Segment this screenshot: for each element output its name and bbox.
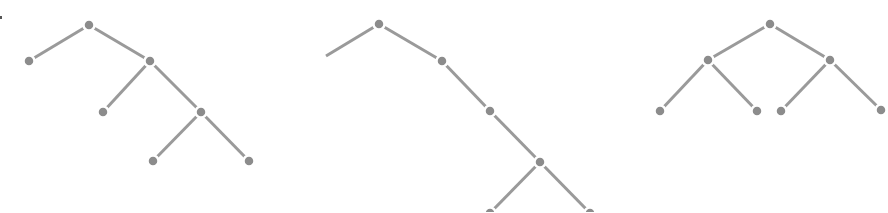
edge-artifact [0,16,2,19]
tree-node [437,56,448,67]
tree-edge [490,111,540,162]
tree-left-edges [29,25,249,161]
tree-node [244,156,255,167]
tree-edge [29,25,89,61]
tree-node [374,19,385,30]
tree-node [825,55,836,66]
tree-edge [379,24,442,61]
tree-node [585,208,596,213]
tree-left-nodes [24,20,255,167]
tree-middle-edges [326,24,590,212]
tree-edge [660,60,708,111]
tree-edge [150,61,201,112]
tree-node [535,157,546,168]
tree-diagram-canvas [0,0,888,212]
tree-edge [89,25,150,61]
tree-edge [781,60,830,111]
tree-node [655,106,666,117]
tree-node [145,56,156,67]
tree-edge [103,61,150,112]
tree-node [98,107,109,118]
tree-edge [830,60,881,110]
tree-edge [201,112,249,161]
tree-node [148,156,159,167]
nodes-layer [24,19,887,213]
tree-node [485,208,496,213]
tree-right-nodes [655,19,887,117]
tree-edge-dangling [326,24,379,56]
tree-edge [708,60,757,111]
tree-node [24,56,35,67]
tree-node [703,55,714,66]
edges-layer [29,24,881,212]
tree-edge [490,162,540,212]
tree-right-edges [660,24,881,111]
tree-node [752,106,763,117]
tree-edge [540,162,590,212]
tree-edge [442,61,490,111]
tree-edge [708,24,770,60]
tree-node [876,105,887,116]
tree-edge [153,112,201,161]
tree-node [485,106,496,117]
tree-node [84,20,95,31]
tree-edge [770,24,830,60]
tree-node [196,107,207,118]
tree-node [765,19,776,30]
tree-node [776,106,787,117]
